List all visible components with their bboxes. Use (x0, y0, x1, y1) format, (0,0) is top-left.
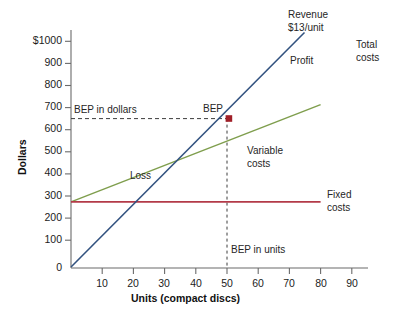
bep-marker (226, 115, 233, 122)
x-tick-80: 80 (307, 278, 335, 290)
x-axis-ticks (102, 268, 352, 274)
bep-in-units-label: BEP in units (231, 244, 285, 255)
x-tick-20: 20 (119, 278, 147, 290)
y-tick-700: 700 (14, 101, 62, 113)
total-costs-label-line2: costs (356, 52, 379, 63)
break-even-chart-figure: Dollars $1000 900 800 700 600 500 400 30… (0, 0, 394, 311)
y-tick-600: 600 (14, 123, 62, 135)
y-tick-200: 200 (14, 212, 62, 224)
x-tick-90: 90 (338, 278, 366, 290)
revenue-label-line1: Revenue (288, 9, 328, 20)
x-axis-title: Units (compact discs) (131, 293, 240, 305)
profit-label: Profit (290, 55, 313, 66)
x-tick-70: 70 (275, 278, 303, 290)
y-tick-0: 0 (40, 262, 62, 274)
y-tick-500: 500 (14, 145, 62, 157)
fixed-costs-label-line2: costs (327, 202, 350, 213)
variable-costs-label-line1: Variable (247, 145, 283, 156)
variable-costs-label-line2: costs (247, 158, 270, 169)
y-tick-300: 300 (14, 190, 62, 202)
y-tick-900: 900 (14, 57, 62, 69)
revenue-label-line2: $13/unit (288, 22, 324, 33)
x-tick-30: 30 (150, 278, 178, 290)
bep-in-dollars-label: BEP in dollars (74, 104, 137, 115)
y-axis-ticks (65, 41, 71, 240)
loss-label: Loss (130, 170, 151, 181)
bep-label: BEP (203, 103, 223, 114)
x-tick-50: 50 (213, 278, 241, 290)
x-tick-10: 10 (88, 278, 116, 290)
x-tick-40: 40 (182, 278, 210, 290)
y-tick-800: 800 (14, 79, 62, 91)
x-tick-60: 60 (244, 278, 272, 290)
fixed-costs-label-line1: Fixed (327, 189, 351, 200)
y-tick-100: 100 (14, 234, 62, 246)
y-tick-400: 400 (14, 167, 62, 179)
y-tick-1000: $1000 (14, 35, 62, 47)
total-costs-line (71, 105, 321, 202)
total-costs-label-line1: Total (356, 39, 377, 50)
